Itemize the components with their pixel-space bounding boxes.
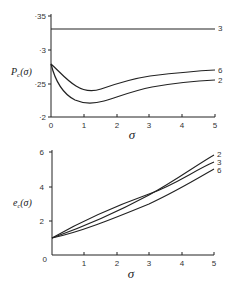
bottom-xtick-label: 5 (212, 259, 217, 268)
bottom-series-3-line (52, 162, 214, 238)
top-ytick-label: ·3 (39, 46, 47, 55)
bottom-xtick-label: 1 (82, 259, 87, 268)
bottom-xtick-label: 3 (147, 259, 152, 268)
bottom-ytick-label: 0 (43, 255, 48, 264)
top-xtick-label: 3 (147, 121, 152, 130)
top-xtick-label: 4 (180, 121, 185, 130)
top-ytick-label: ·2 (39, 113, 47, 122)
top-xtick-label: 2 (115, 121, 120, 130)
bottom-y-axis-label: ec(σ) (13, 197, 32, 209)
bottom-xtick-label: 4 (180, 259, 185, 268)
top-ytick-label: ·25 (34, 80, 46, 89)
figure: ·35 ·3 ·25 ·2 0 1 2 3 4 5 Pc(σ) σ (0, 0, 234, 286)
top-series-2-line (51, 64, 215, 103)
top-ytick-label: ·35 (34, 12, 46, 21)
bottom-xtick-label: 2 (115, 259, 120, 268)
top-series-label: 2 (218, 76, 223, 85)
bottom-ytick-label: 2 (40, 217, 45, 226)
bottom-x-axis-label: σ (128, 266, 135, 281)
top-y-ticks: ·35 ·3 ·25 ·2 (34, 12, 51, 122)
top-xtick-label: 5 (213, 121, 218, 130)
top-x-axis-label: σ (129, 127, 136, 142)
top-series-6-line (51, 64, 215, 91)
bottom-series-label: 6 (217, 166, 222, 175)
top-series-label: 6 (218, 66, 223, 75)
bottom-ytick-label: 4 (40, 183, 45, 192)
top-y-axis-label: Pc(σ) (10, 66, 32, 79)
bottom-ytick-label: 6 (40, 148, 45, 157)
bottom-y-ticks: 6 4 2 0 (40, 148, 52, 264)
bottom-x-ticks: 1 2 3 4 5 (82, 252, 217, 268)
top-chart: ·35 ·3 ·25 ·2 0 1 2 3 4 5 Pc(σ) σ (10, 12, 223, 142)
top-series-label: 3 (218, 24, 223, 33)
top-xtick-label: 1 (82, 121, 87, 130)
bottom-chart: 6 4 2 0 1 2 3 4 5 ec(σ) σ 2 3 6 (13, 148, 222, 281)
top-xtick-label: 0 (49, 121, 54, 130)
